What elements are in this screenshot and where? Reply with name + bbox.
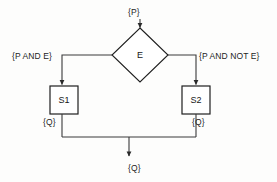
assertion-s2-postcondition: {Q} [192,117,205,127]
process-label-s1: S1 [56,95,72,105]
assertion-false-branch: {P AND NOT E} [199,51,260,61]
edge-false-branch [168,55,196,85]
assertion-s1-postcondition: {Q} [43,117,56,127]
flowchart-graphics [0,0,277,182]
process-label-s2: S2 [188,95,204,105]
assertion-true-branch: {P AND E} [12,51,52,61]
assertion-precondition: {P} [128,7,140,17]
flowchart-canvas: E S1 S2 {P} {P AND E} {P AND NOT E} {Q} … [0,0,277,182]
decision-label: E [132,50,148,60]
assertion-postcondition: {Q} [128,163,141,173]
edge-true-branch [62,55,112,85]
